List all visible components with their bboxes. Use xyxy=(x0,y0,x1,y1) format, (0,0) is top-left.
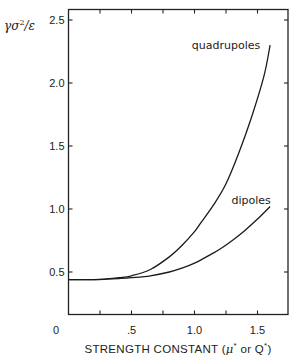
series-labels: quadrupolesdipoles xyxy=(192,39,271,207)
series-label-quadrupoles: quadrupoles xyxy=(192,39,261,52)
y-axis-title: γσ2/ε xyxy=(4,18,35,33)
x-tick-label: 1.5 xyxy=(250,324,265,336)
x-tick-label: 1.0 xyxy=(187,324,202,336)
y-axis-title-gamma-sigma: γσ xyxy=(4,19,20,33)
plot-frame xyxy=(69,10,289,315)
origin-label: 0 xyxy=(53,324,59,336)
line-chart: .51.01.5 0.51.01.52.02.5 quadrupolesdipo… xyxy=(0,0,296,361)
y-tick-label: 2.0 xyxy=(49,77,64,89)
y-tick-label: 0.5 xyxy=(49,266,64,278)
y-tick-label: 1.0 xyxy=(49,203,64,215)
x-axis-ticks: .51.01.5 xyxy=(100,10,265,337)
series-label-dipoles: dipoles xyxy=(232,194,272,207)
series-line-quadrupoles xyxy=(69,45,271,279)
y-tick-label: 1.5 xyxy=(49,140,64,152)
series-lines xyxy=(69,45,271,279)
y-tick-label: 2.5 xyxy=(49,14,64,26)
x-tick-label: .5 xyxy=(127,324,136,336)
y-axis-ticks: 0.51.01.52.02.5 xyxy=(49,14,288,278)
x-axis-title: STRENGTH CONSTANT (μ* or Q*) xyxy=(84,341,271,356)
series-line-dipoles xyxy=(69,206,271,279)
